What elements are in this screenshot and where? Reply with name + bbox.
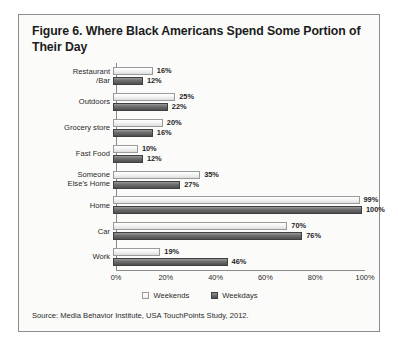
figure-title: Figure 6. Where Black Americans Spend So… bbox=[32, 24, 362, 55]
x-axis-line bbox=[116, 270, 365, 271]
bar-row: Home99%100% bbox=[29, 192, 371, 218]
bar-value-label: 12% bbox=[147, 155, 162, 163]
x-tick-label: 100% bbox=[356, 273, 375, 282]
bar-weekdays bbox=[113, 155, 143, 163]
chart-legend: WeekendsWeekdays bbox=[19, 291, 381, 300]
bar-row: Someone Else's Home35%27% bbox=[29, 167, 371, 193]
bar-value-label: 10% bbox=[142, 145, 157, 153]
bar-value-label: 22% bbox=[172, 103, 187, 111]
bar-weekdays bbox=[113, 77, 143, 85]
bar-value-label: 46% bbox=[232, 258, 247, 266]
category-label: Fast Food bbox=[29, 149, 113, 158]
bar-weekdays bbox=[113, 258, 228, 266]
x-tick-label: 80% bbox=[308, 273, 323, 282]
bar-weekends bbox=[113, 145, 138, 153]
bar-value-label: 100% bbox=[366, 206, 385, 214]
bar-value-label: 19% bbox=[164, 248, 179, 256]
category-label: Restaurant /Bar bbox=[29, 67, 113, 85]
bar-row: Grocery store20%16% bbox=[29, 115, 371, 141]
bar-value-label: 27% bbox=[184, 181, 199, 189]
bar-group: 25%22% bbox=[113, 89, 371, 115]
source-note: Source: Media Behavior Institute, USA To… bbox=[32, 311, 249, 320]
bar-weekends bbox=[113, 196, 360, 204]
figure-container: Figure 6. Where Black Americans Spend So… bbox=[18, 14, 380, 332]
bar-weekends bbox=[113, 119, 163, 127]
bar-group: 20%16% bbox=[113, 115, 371, 141]
category-label: Car bbox=[29, 227, 113, 236]
legend-swatch-icon bbox=[211, 292, 218, 299]
bar-value-label: 70% bbox=[291, 222, 306, 230]
x-tick-label: 0% bbox=[111, 273, 122, 282]
bar-weekends bbox=[113, 67, 153, 75]
bar-weekends bbox=[113, 248, 160, 256]
bar-value-label: 16% bbox=[157, 67, 172, 75]
bar-value-label: 16% bbox=[157, 129, 172, 137]
x-tick-label: 20% bbox=[158, 273, 173, 282]
bar-rows: Restaurant /Bar16%12%Outdoors25%22%Groce… bbox=[29, 63, 371, 270]
category-label: Work bbox=[29, 252, 113, 261]
bar-group: 10%12% bbox=[113, 141, 371, 167]
bar-value-label: 25% bbox=[179, 93, 194, 101]
bar-group: 16%12% bbox=[113, 63, 371, 89]
bar-value-label: 35% bbox=[204, 171, 219, 179]
bar-weekdays bbox=[113, 103, 168, 111]
x-tick-label: 40% bbox=[208, 273, 223, 282]
bar-weekends bbox=[113, 93, 175, 101]
bar-row: Restaurant /Bar16%12% bbox=[29, 63, 371, 89]
category-label: Outdoors bbox=[29, 97, 113, 106]
bar-weekdays bbox=[113, 206, 362, 214]
bar-value-label: 20% bbox=[167, 119, 182, 127]
x-tick-label: 60% bbox=[258, 273, 273, 282]
bar-row: Outdoors25%22% bbox=[29, 89, 371, 115]
bar-weekdays bbox=[113, 232, 302, 240]
bar-weekdays bbox=[113, 129, 153, 137]
bar-row: Car70%76% bbox=[29, 218, 371, 244]
bar-weekends bbox=[113, 171, 200, 179]
bar-value-label: 12% bbox=[147, 77, 162, 85]
bar-row: Work19%46% bbox=[29, 244, 371, 270]
bar-weekdays bbox=[113, 181, 180, 189]
category-label: Home bbox=[29, 201, 113, 210]
legend-swatch-icon bbox=[142, 292, 149, 299]
bar-group: 70%76% bbox=[113, 218, 371, 244]
bar-group: 99%100% bbox=[113, 192, 371, 218]
category-label: Someone Else's Home bbox=[29, 170, 113, 188]
legend-label: Weekends bbox=[153, 291, 189, 300]
legend-item-weekends[interactable]: Weekends bbox=[142, 291, 189, 300]
x-axis-ticks: 0%20%40%60%80%100% bbox=[116, 273, 365, 285]
bar-row: Fast Food10%12% bbox=[29, 141, 371, 167]
bar-value-label: 99% bbox=[364, 196, 379, 204]
legend-item-weekdays[interactable]: Weekdays bbox=[211, 291, 257, 300]
bar-group: 35%27% bbox=[113, 167, 371, 193]
chart-plot-area: Restaurant /Bar16%12%Outdoors25%22%Groce… bbox=[29, 63, 371, 285]
legend-label: Weekdays bbox=[222, 291, 257, 300]
bar-group: 19%46% bbox=[113, 244, 371, 270]
bar-weekends bbox=[113, 222, 287, 230]
bar-value-label: 76% bbox=[306, 232, 321, 240]
category-label: Grocery store bbox=[29, 123, 113, 132]
